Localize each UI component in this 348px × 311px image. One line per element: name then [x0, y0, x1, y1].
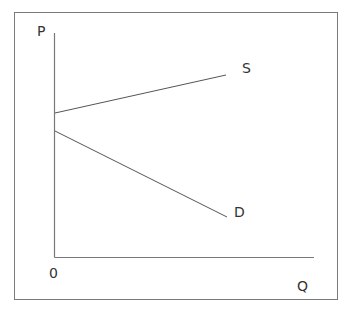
demand-label: D [234, 204, 245, 220]
supply-demand-diagram: P S D 0 Q [0, 0, 348, 311]
supply-line [55, 75, 226, 113]
demand-line [55, 131, 227, 217]
origin-label: 0 [49, 265, 58, 281]
x-axis-label: Q [297, 278, 308, 294]
supply-label: S [242, 60, 251, 76]
y-axis-label: P [37, 23, 45, 39]
